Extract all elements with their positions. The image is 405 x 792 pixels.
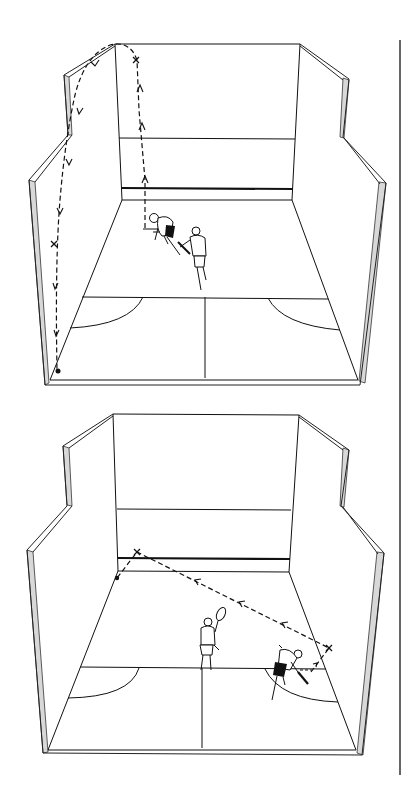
court-bottom bbox=[27, 414, 384, 755]
x-marker bbox=[134, 549, 140, 555]
court-top bbox=[29, 44, 386, 385]
x-marker bbox=[51, 241, 57, 247]
ball-dot bbox=[115, 576, 119, 580]
player-figure bbox=[150, 214, 181, 256]
player-figure bbox=[178, 227, 206, 290]
x-marker bbox=[326, 645, 332, 651]
player-figure bbox=[200, 606, 228, 670]
ball-dot bbox=[56, 369, 61, 374]
player-figure bbox=[272, 645, 308, 700]
squash-diagram bbox=[0, 0, 405, 792]
